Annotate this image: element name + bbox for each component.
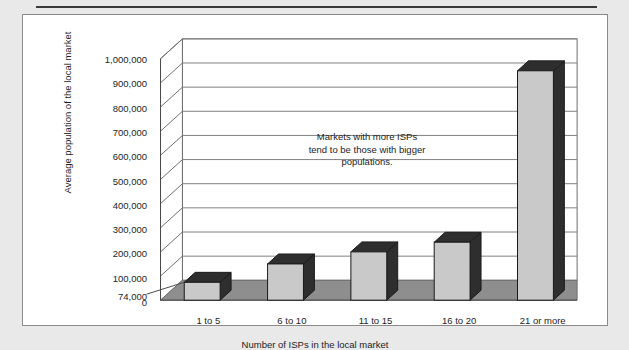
bar-4 [434,232,481,300]
x-axis-title: Number of ISPs in the local market [23,339,607,350]
bar-1 [184,272,231,300]
x-axis-tick-label: 21 or more [520,315,566,326]
annotation-line-2: tend to be those with bigger [279,144,455,157]
x-axis-tick-label: 6 to 10 [277,315,306,326]
chart-annotation: Markets with more ISPs tend to be those … [279,131,455,169]
bar-5 [518,61,565,300]
bar-front-face [184,282,220,300]
page-top-rule [36,6,597,8]
annotation-line-1: Markets with more ISPs [279,131,455,144]
bar-side-face [470,232,481,300]
annotation-line-3: populations. [279,156,455,169]
bar-front-face [518,71,554,300]
bar-2 [268,254,315,300]
chart-panel: Average population of the local market 0… [22,14,608,326]
bar-3 [351,242,398,300]
bar-front-face [268,264,304,300]
bar-side-face [553,61,564,300]
x-axis-tick-label: 1 to 5 [196,315,220,326]
bar-front-face [351,252,387,300]
x-axis-tick-label: 16 to 20 [442,315,476,326]
bar-front-face [434,242,470,300]
x-axis-tick-label: 11 to 15 [359,315,393,326]
chart-plot-area [23,15,607,325]
